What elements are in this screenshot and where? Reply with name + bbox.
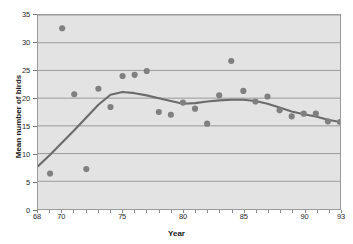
x-tick-label: 80 — [179, 212, 187, 221]
y-tick-label: 35 — [0, 10, 30, 19]
y-tick-mark — [33, 154, 37, 155]
chart-container: 05101520253035 Mean number of birds Year… — [0, 0, 353, 244]
data-point — [168, 112, 174, 118]
data-point — [289, 113, 295, 119]
y-tick-mark — [33, 42, 37, 43]
y-tick-mark — [33, 126, 37, 127]
data-point — [240, 88, 246, 94]
data-point — [71, 91, 77, 97]
x-tick-label: 68 — [33, 212, 41, 221]
x-tick-mark — [329, 210, 330, 213]
data-point — [107, 104, 113, 110]
y-tick-label: 30 — [0, 38, 30, 47]
data-point — [228, 58, 234, 64]
data-point — [313, 111, 319, 117]
y-tick-label: 0 — [0, 206, 30, 215]
x-tick-mark — [268, 210, 269, 213]
data-point — [277, 107, 283, 113]
data-point — [216, 92, 222, 98]
x-tick-mark — [292, 210, 293, 213]
trend-line — [38, 92, 340, 166]
x-tick-mark — [317, 210, 318, 213]
x-tick-mark — [280, 210, 281, 213]
y-tick-mark — [33, 70, 37, 71]
x-tick-label: 93 — [337, 212, 345, 221]
data-point — [264, 93, 270, 99]
data-point — [325, 118, 331, 124]
data-point — [156, 109, 162, 115]
x-tick-label: 70 — [57, 212, 65, 221]
x-tick-mark — [110, 210, 111, 213]
x-tick-mark — [49, 210, 50, 213]
data-point — [192, 106, 198, 112]
x-tick-label: 90 — [301, 212, 309, 221]
x-tick-mark — [232, 210, 233, 213]
x-tick-mark — [256, 210, 257, 213]
x-tick-mark — [86, 210, 87, 213]
x-tick-mark — [73, 210, 74, 213]
data-point — [204, 121, 210, 127]
data-point — [83, 166, 89, 172]
data-point — [132, 72, 138, 78]
data-point — [59, 25, 65, 31]
y-tick-mark — [33, 14, 37, 15]
x-tick-label: 75 — [118, 212, 126, 221]
data-point — [119, 73, 125, 79]
data-point — [144, 68, 150, 74]
data-point — [95, 86, 101, 92]
data-point — [337, 119, 340, 125]
x-axis-title: Year — [0, 229, 353, 238]
x-tick-mark — [171, 210, 172, 213]
x-tick-mark — [219, 210, 220, 213]
x-tick-mark — [134, 210, 135, 213]
x-tick-label: 85 — [240, 212, 248, 221]
data-point — [301, 111, 307, 117]
x-tick-mark — [146, 210, 147, 213]
x-tick-mark — [159, 210, 160, 213]
x-tick-mark — [207, 210, 208, 213]
plot-area — [37, 14, 341, 210]
data-point — [252, 98, 258, 104]
x-tick-mark — [98, 210, 99, 213]
data-point — [47, 170, 53, 176]
y-tick-mark — [33, 98, 37, 99]
y-axis-title: Mean number of birds — [14, 52, 23, 182]
data-point — [180, 100, 186, 106]
y-tick-mark — [33, 182, 37, 183]
x-tick-mark — [195, 210, 196, 213]
data-series-layer — [38, 15, 340, 209]
